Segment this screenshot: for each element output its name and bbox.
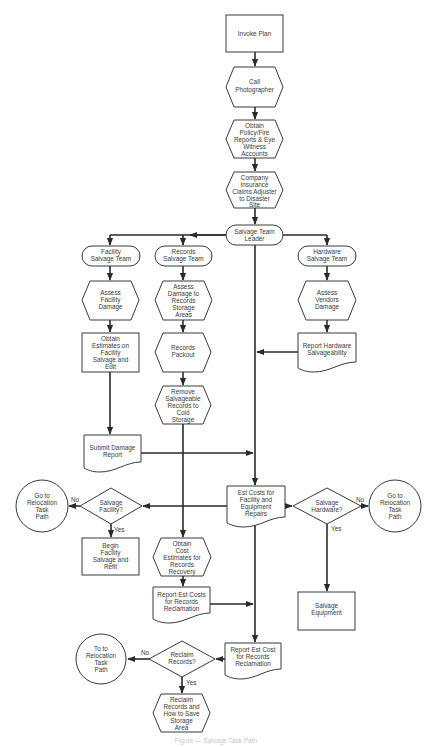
node-label: Assess bbox=[173, 283, 194, 290]
node-label: Assess bbox=[100, 289, 121, 296]
node-reclaim-records-save-storage: Reclaim Records and How to Save Storage … bbox=[153, 694, 210, 732]
node-label: Records bbox=[172, 297, 196, 304]
node-label: Areas bbox=[175, 311, 192, 318]
node-label: Records to bbox=[168, 402, 199, 409]
node-label: How to Save bbox=[163, 710, 200, 717]
node-label: Damage bbox=[315, 303, 340, 311]
no-branch-label: No bbox=[356, 496, 365, 503]
figure-caption: Figure — Salvage Task Path bbox=[175, 737, 258, 745]
node-label: Equipment bbox=[311, 609, 342, 617]
node-label: Estimates on bbox=[92, 342, 129, 349]
node-company-insurance-adjuster: Company Insurance Claims Adjuster to Dis… bbox=[226, 172, 283, 208]
node-label: Relocation bbox=[86, 652, 117, 659]
node-remove-salvageable-records: Remove Salvageable Records to Cold Stora… bbox=[155, 386, 211, 424]
node-goto-relocation-right: Go to Relocation Task Path bbox=[369, 480, 421, 532]
node-label: Edit bbox=[105, 363, 116, 370]
node-label: Salvage Team bbox=[163, 255, 203, 263]
node-assess-facility-damage: Assess Facility Damage bbox=[82, 281, 139, 320]
node-salvage-facility-decision: Salvage Facility? No Yes bbox=[71, 488, 142, 533]
node-obtain-estimates-facility: Obtain Estimates on Facility Salvage and… bbox=[82, 333, 139, 372]
node-label: Records? bbox=[168, 658, 196, 665]
node-goto-relocation-bottom: To to Relocation Task Path bbox=[76, 634, 126, 684]
node-label: Salvage Team bbox=[91, 255, 131, 263]
node-report-est-costs-records: Report Est Costs for Records Reclamation bbox=[153, 587, 210, 623]
node-label: Insurance bbox=[240, 181, 269, 188]
yes-branch-label: Yes bbox=[331, 525, 341, 532]
node-label: Records bbox=[170, 561, 194, 568]
node-label: Obtain bbox=[101, 335, 120, 342]
node-label: Recovery bbox=[169, 568, 197, 576]
node-label: Repairs bbox=[245, 510, 267, 518]
node-label: Path bbox=[388, 513, 402, 520]
node-label: Relocation bbox=[27, 499, 58, 506]
node-label: Task bbox=[388, 506, 402, 513]
node-label: Refit bbox=[104, 563, 117, 570]
node-report-est-cost-records-final: Report Est Cost for Records Reclamation bbox=[225, 643, 281, 679]
node-label: Photographer bbox=[235, 86, 275, 94]
node-submit-damage-report: Submit Damage Report bbox=[84, 435, 141, 472]
node-label: Go to bbox=[387, 492, 403, 499]
node-label: Relocation bbox=[380, 499, 411, 506]
node-label: Hardware bbox=[313, 248, 341, 255]
salvage-flowchart: Invoke Plan Call Photographer Obtain Pol… bbox=[0, 0, 433, 747]
node-begin-facility-salvage: Begin Facility Salvage and Refit bbox=[82, 538, 139, 575]
node-label: Packout bbox=[171, 351, 194, 358]
yes-branch-label: Yes bbox=[114, 526, 124, 533]
node-call-photographer: Call Photographer bbox=[226, 67, 283, 107]
node-label: Remove bbox=[171, 388, 195, 395]
node-records-packout: Records Packout bbox=[155, 333, 211, 372]
node-label: Accounts bbox=[241, 150, 267, 157]
node-label: for Records bbox=[236, 653, 269, 660]
node-label: To to bbox=[94, 645, 108, 652]
node-assess-records-damage: Assess Damage to Records Storage Areas bbox=[155, 281, 212, 320]
node-label: Reclaim bbox=[170, 651, 193, 658]
node-label: Assess bbox=[317, 289, 338, 296]
node-facility-salvage-team: Facility Salvage Team bbox=[82, 246, 140, 266]
node-label: Area bbox=[175, 724, 189, 731]
node-hardware-salvage-team: Hardware Salvage Team bbox=[298, 246, 356, 266]
node-label: Records and bbox=[163, 703, 200, 710]
node-label: Est Costs for bbox=[238, 489, 275, 496]
node-label: Records bbox=[171, 344, 195, 351]
node-label: Estimates for bbox=[163, 554, 201, 561]
yes-branch-label: Yes bbox=[186, 679, 196, 686]
node-est-costs-facility-equipment: Est Costs for Facility and Equipment Rep… bbox=[227, 486, 285, 527]
node-label: Path bbox=[35, 513, 49, 520]
node-label: Cost bbox=[175, 547, 188, 554]
node-label: Leader bbox=[245, 235, 266, 242]
node-records-salvage-team: Records Salvage Team bbox=[155, 246, 212, 266]
node-label: Salvage Team bbox=[307, 255, 347, 263]
node-label: Invoke Plan bbox=[238, 30, 272, 37]
node-label: Report bbox=[103, 451, 122, 459]
node-label: for Records bbox=[165, 598, 198, 605]
node-label: Vendors bbox=[315, 296, 338, 303]
node-salvage-equipment: Salvage Equipment bbox=[298, 592, 355, 630]
no-branch-label: No bbox=[71, 496, 80, 503]
node-label: Records bbox=[172, 248, 196, 255]
node-label: Obtain bbox=[173, 540, 192, 547]
node-invoke-plan: Invoke Plan bbox=[226, 15, 283, 52]
node-label: Salvageability bbox=[307, 349, 347, 357]
node-label: Damage bbox=[98, 303, 123, 311]
node-salvage-team-leader: Salvage Team Leader bbox=[226, 225, 283, 245]
node-salvage-hardware-decision: Salvage Hardware? No Yes bbox=[293, 488, 365, 532]
node-label: Call bbox=[249, 78, 260, 85]
node-assess-vendors-damage: Assess Vendors Damage bbox=[298, 281, 356, 320]
node-label: Obtain bbox=[245, 122, 264, 129]
node-label: Path bbox=[94, 666, 108, 673]
node-label: Site bbox=[249, 201, 260, 208]
node-label: Reclaim bbox=[170, 696, 193, 703]
node-label: Facility? bbox=[99, 506, 123, 514]
node-report-hardware-salvageability: Report Hardware Salvageability bbox=[298, 333, 356, 372]
node-label: Hardware? bbox=[311, 506, 343, 513]
node-obtain-policy-reports: Obtain Policy/Fire Reports & Eye Witness… bbox=[226, 120, 283, 158]
node-label: Cold bbox=[176, 409, 190, 416]
node-label: Task bbox=[94, 659, 108, 666]
node-label: Reclamation bbox=[164, 605, 200, 612]
node-label: Go to bbox=[34, 492, 50, 499]
node-label: Task bbox=[35, 506, 49, 513]
node-reclaim-records-decision: Reclaim Records? No Yes bbox=[141, 641, 215, 686]
node-label: Storage bbox=[172, 416, 195, 424]
node-label: Witness bbox=[243, 143, 266, 150]
no-branch-label: No bbox=[141, 649, 150, 656]
